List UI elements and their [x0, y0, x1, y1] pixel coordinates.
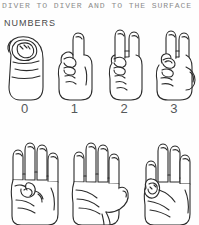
running-title: DIVER TO DIVER AND TO THE SURFACE	[2, 0, 199, 11]
numbers-row-four-to-six	[0, 128, 199, 225]
figure-four	[0, 128, 66, 225]
hand-signal-five-icon	[66, 128, 132, 225]
hand-signal-six-icon	[137, 128, 195, 225]
page-title: NUMBERS	[4, 18, 56, 28]
hand-signal-two-icon	[101, 27, 147, 101]
figure-three	[149, 29, 199, 101]
figure-five	[66, 128, 132, 225]
figure-two	[99, 29, 149, 101]
scanned-manual-page: DIVER TO DIVER AND TO THE SURFACE NUMBER…	[0, 0, 199, 225]
figure-six	[133, 128, 199, 225]
caption-three: 3	[149, 101, 199, 116]
hand-signal-four-icon	[2, 128, 64, 225]
hand-signal-three-icon	[149, 27, 199, 101]
caption-one: 1	[50, 101, 100, 116]
numeral-caption-row: 0 1 2 3	[0, 101, 199, 116]
numbers-row-zero-to-three	[0, 29, 199, 101]
figure-zero	[0, 29, 50, 101]
caption-zero: 0	[0, 101, 50, 116]
hand-signal-zero-icon	[2, 29, 48, 101]
figure-one	[50, 29, 100, 101]
hand-signal-one-icon	[52, 29, 98, 101]
caption-two: 2	[100, 101, 150, 116]
